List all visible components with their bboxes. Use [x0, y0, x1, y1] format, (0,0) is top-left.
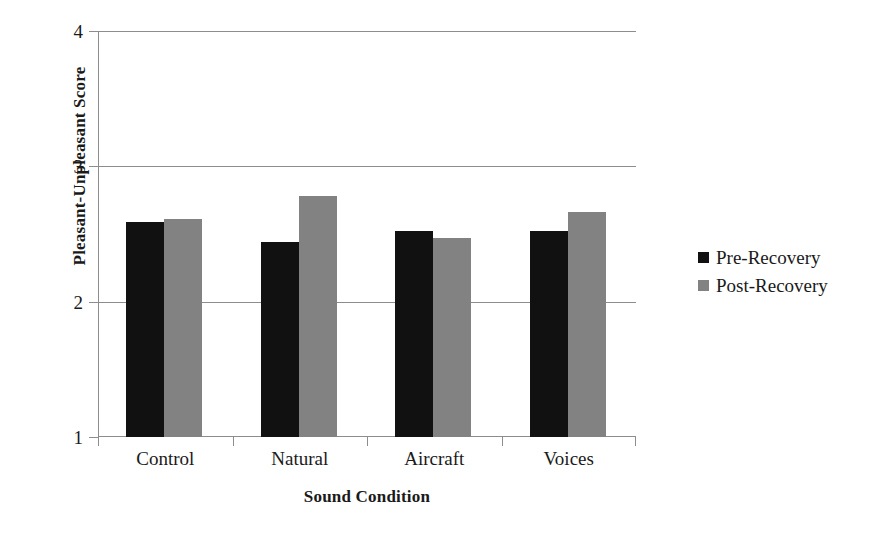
bar [299, 196, 337, 437]
plot-area: 1234 ControlNaturalAircraftVoices [98, 31, 636, 437]
x-axis-category-label: Aircraft [404, 449, 464, 468]
legend: Pre-RecoveryPost-Recovery [698, 243, 828, 299]
x-axis-tick [502, 437, 503, 446]
x-axis-tick [98, 437, 99, 446]
y-axis-tick-label: 3 [74, 157, 84, 176]
y-axis-tick-label: 1 [74, 428, 84, 447]
x-axis-title: Sound Condition [98, 487, 636, 507]
legend-swatch [698, 280, 709, 291]
bar [261, 242, 299, 437]
bar [164, 219, 202, 437]
gridline [98, 166, 636, 167]
legend-label: Pre-Recovery [716, 248, 820, 267]
bar [395, 231, 433, 437]
bar-chart-figure: Pleasant-Unpleasant Score 1234 ControlNa… [0, 0, 880, 533]
bar [530, 231, 568, 437]
legend-swatch [698, 252, 709, 263]
y-axis-tick-label: 4 [74, 22, 84, 41]
y-axis-tick: 1 [89, 437, 98, 438]
y-axis-tick: 2 [89, 302, 98, 303]
y-axis-tick: 4 [89, 31, 98, 32]
legend-item[interactable]: Pre-Recovery [698, 243, 828, 271]
x-axis-tick [233, 437, 234, 446]
bar [126, 222, 164, 437]
x-axis-category-label: Voices [544, 449, 594, 468]
x-axis-category-label: Natural [271, 449, 328, 468]
y-axis-line [98, 31, 99, 437]
legend-item[interactable]: Post-Recovery [698, 271, 828, 299]
x-axis-tick [367, 437, 368, 446]
x-axis-tick [635, 437, 636, 446]
bar [568, 212, 606, 437]
legend-label: Post-Recovery [716, 276, 828, 295]
y-axis-tick-label: 2 [74, 292, 84, 311]
x-axis-category-label: Control [136, 449, 194, 468]
y-axis-tick: 3 [89, 166, 98, 167]
gridline [98, 31, 636, 32]
bar [433, 238, 471, 437]
